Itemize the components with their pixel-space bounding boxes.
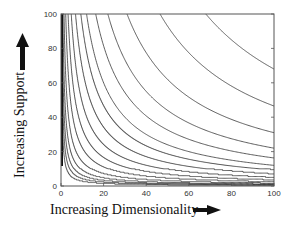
x-tick-label: 40 — [142, 189, 151, 198]
contour-12 — [64, 14, 274, 183]
y-tick-label: 60 — [48, 79, 57, 88]
contour-2 — [160, 14, 274, 106]
contour-1 — [206, 14, 274, 69]
x-tick-label: 20 — [99, 189, 108, 198]
y-axis-title-group: Increasing Support — [12, 72, 27, 178]
y-tick-label: 20 — [48, 148, 57, 157]
contour-16 — [62, 43, 274, 185]
y-tick-label: 0 — [53, 182, 58, 191]
contour-curves — [61, 14, 274, 185]
y-tick-label: 100 — [44, 10, 58, 19]
y-tick-label: 80 — [48, 44, 57, 53]
y-axis-title: Increasing Support — [12, 72, 27, 178]
contour-chart: 020406080100020406080100 Increasing Supp… — [0, 0, 293, 228]
contour-4 — [108, 14, 274, 148]
x-tick-label: 0 — [59, 189, 64, 198]
contour-3 — [127, 14, 274, 133]
contour-8 — [75, 14, 274, 174]
x-tick-label: 100 — [267, 189, 281, 198]
contour-11 — [66, 14, 274, 182]
contour-15 — [62, 14, 274, 185]
contour-5 — [96, 14, 274, 158]
contour-13 — [63, 14, 274, 184]
x-tick-label: 80 — [227, 189, 236, 198]
y-tick-label: 40 — [48, 113, 57, 122]
x-axis-title: Increasing Dimensionality — [50, 202, 198, 217]
x-tick-label: 60 — [184, 189, 193, 198]
axis-ticks: 020406080100020406080100 — [44, 10, 282, 198]
contour-14 — [62, 14, 274, 184]
contour-7 — [81, 14, 274, 170]
up-arrow-icon — [16, 33, 29, 70]
